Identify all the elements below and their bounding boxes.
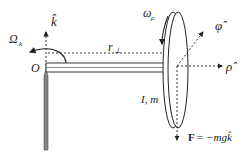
phi-hat-label: φ̂ (215, 18, 227, 33)
pivot-post (44, 70, 48, 150)
r-perp-label: r (108, 40, 113, 54)
omega-k-label: Ω (9, 32, 18, 46)
omega-k-subscript: k (19, 40, 23, 48)
rod (46, 63, 166, 72)
force-equation: = −mgk̂ (196, 131, 233, 143)
omega-rho-subscript: ρ (150, 14, 155, 22)
gyroscope-diagram: k̂ Ω k O r ⊥ ω ρ φ̂ ρ̂ I, m F = −mgk̂ (0, 0, 247, 153)
r-perp-subscript: ⊥ (114, 46, 121, 55)
origin-label: O (31, 61, 40, 75)
k-hat-label: k̂ (51, 14, 57, 29)
disk (163, 12, 188, 128)
force-label: F (188, 131, 195, 143)
inertia-mass-label: I, m (140, 93, 158, 105)
rho-hat-label: ρ̂ (225, 59, 237, 74)
